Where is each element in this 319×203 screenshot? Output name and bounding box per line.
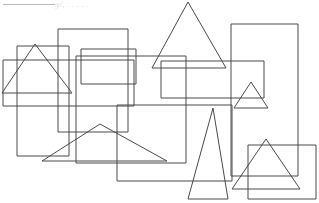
shape-triangle-bottom-wide-flat [42,124,167,161]
shape-triangle-left [2,44,72,93]
shapes-figure [0,0,319,203]
shape-rect-left-tall [17,46,69,156]
drawing-canvas: y/, . . . . . [0,0,319,203]
shape-triangle-top-large [152,2,226,68]
shape-rect-bottom-right [248,145,316,199]
shape-rect-center-big [76,56,186,163]
shape-rect-upper-right [161,61,264,98]
shape-triangle-right-small [234,82,268,108]
shape-triangle-bottom-right [232,139,300,189]
shape-rect-far-right-tall [231,24,298,176]
shape-group [2,2,316,199]
shape-triangle-bottom-narrow-tall [188,108,228,199]
